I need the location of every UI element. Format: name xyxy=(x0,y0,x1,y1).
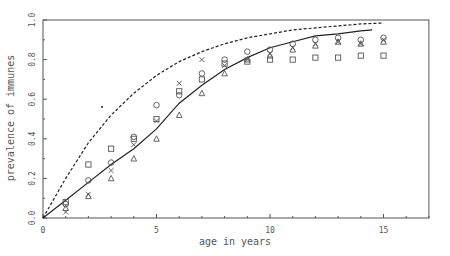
circle-marker xyxy=(154,102,160,108)
curve-fitted-solid xyxy=(43,30,372,218)
x-axis-label: age in years xyxy=(199,236,271,247)
square-marker xyxy=(313,55,318,60)
cross-marker xyxy=(177,81,182,86)
plot-frame xyxy=(43,20,429,218)
y-tick-label: 0.4 xyxy=(28,131,37,146)
square-marker xyxy=(358,53,363,58)
cross-marker xyxy=(200,57,205,62)
circle-marker xyxy=(131,134,137,140)
square-marker xyxy=(336,55,341,60)
data-markers xyxy=(63,35,386,214)
y-tick-label: 1.0 xyxy=(28,13,37,28)
square-marker xyxy=(199,77,204,82)
square-marker xyxy=(290,57,295,62)
triangle-marker xyxy=(154,136,160,141)
cross-marker xyxy=(222,63,227,68)
y-axis-label: prevalence of immunes xyxy=(5,55,16,181)
circle-marker xyxy=(222,57,228,63)
circle-marker xyxy=(199,71,205,77)
annotation-dot xyxy=(101,106,103,108)
square-marker xyxy=(109,146,114,151)
x-tick-label: 0 xyxy=(41,226,46,235)
square-marker xyxy=(381,53,386,58)
y-tick-label: 0.2 xyxy=(28,171,37,186)
triangle-marker xyxy=(199,90,205,95)
chart-plot: 0510150.00.20.40.60.81.0 age in years pr… xyxy=(0,0,450,256)
x-tick-label: 5 xyxy=(154,226,159,235)
curve-fitted-dashed xyxy=(43,23,384,218)
x-tick-label: 15 xyxy=(379,226,389,235)
cross-marker xyxy=(131,142,136,147)
triangle-marker xyxy=(108,175,114,180)
y-tick-label: 0.0 xyxy=(28,211,37,226)
triangle-marker xyxy=(131,156,137,161)
axis-ticks: 0510150.00.20.40.60.81.0 xyxy=(28,13,429,235)
triangle-marker xyxy=(176,112,182,117)
circle-marker xyxy=(245,49,251,55)
cross-marker xyxy=(154,119,159,124)
y-tick-label: 0.6 xyxy=(28,92,37,107)
fitted-curves xyxy=(43,23,384,218)
circle-marker xyxy=(176,92,182,98)
cross-marker xyxy=(109,168,114,173)
plot-border xyxy=(43,20,429,218)
x-tick-label: 10 xyxy=(265,226,275,235)
square-marker xyxy=(86,162,91,167)
y-tick-label: 0.8 xyxy=(28,52,37,67)
